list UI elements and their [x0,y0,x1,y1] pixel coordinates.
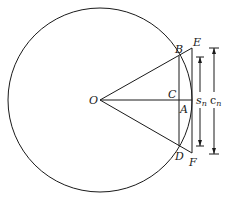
label-B: B [174,43,183,56]
label-s-n: sn [196,94,207,108]
label-D: D [174,150,184,163]
label-c-n: cn [210,94,221,108]
label-O: O [89,94,98,107]
label-E: E [192,36,201,49]
line-OF [100,100,192,153]
label-F: F [188,156,197,169]
geometry-figure: O B E C A D F sn cn [0,0,228,200]
label-A: A [179,103,188,116]
label-C: C [168,88,177,101]
diagram-canvas: O B E C A D F sn cn [0,0,228,200]
